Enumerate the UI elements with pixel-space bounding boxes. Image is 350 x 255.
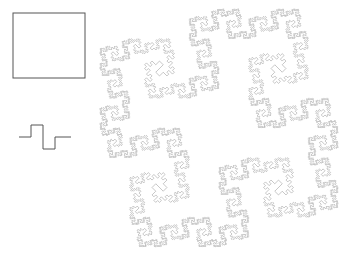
- initiator-square: [13, 13, 85, 78]
- koch-island-figure: [100, 9, 338, 247]
- koch-island-curve: [100, 9, 338, 247]
- diagram-canvas: [0, 0, 350, 255]
- generator-figure: [19, 125, 71, 149]
- generator-motif: [19, 125, 71, 149]
- fractal-construction-diagram: [0, 0, 350, 255]
- initiator-figure: [13, 13, 85, 78]
